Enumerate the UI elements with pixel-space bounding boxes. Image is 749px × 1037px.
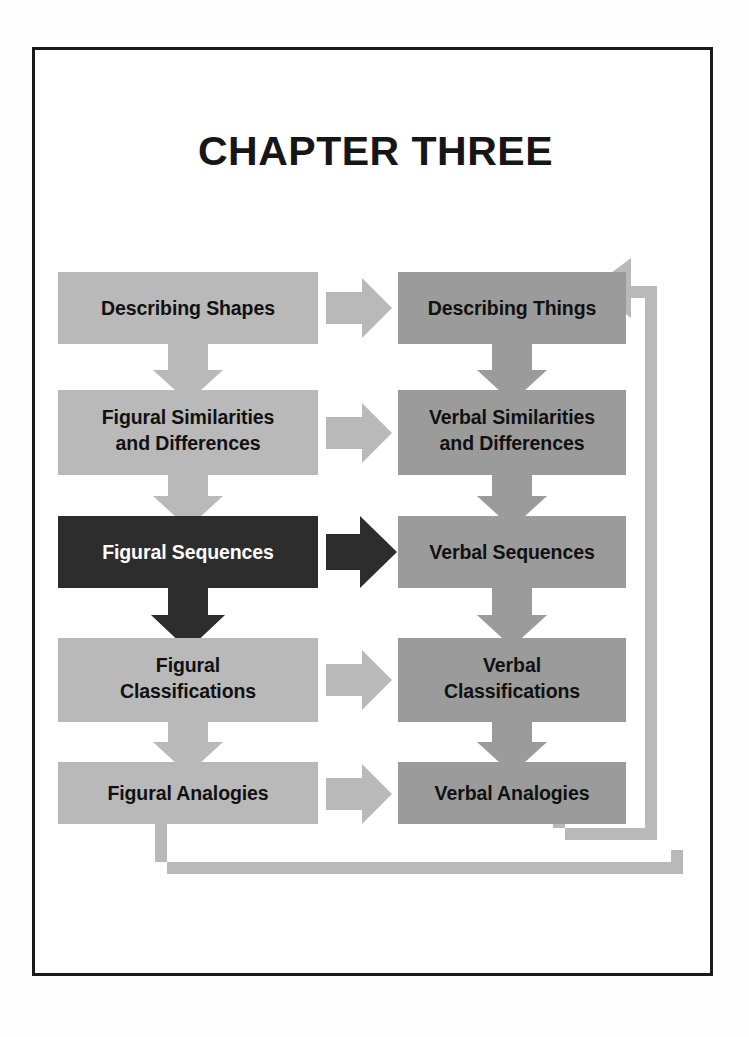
node-verbal-analogies[interactable]: Verbal Analogies bbox=[398, 762, 626, 824]
node-verbal-similarities[interactable]: Verbal Similarities and Differences bbox=[398, 390, 626, 475]
node-verbal-sequences[interactable]: Verbal Sequences bbox=[398, 516, 626, 588]
node-label: Classifications bbox=[444, 680, 580, 702]
page-canvas: CHAPTER THREE Describing Shapes Desc bbox=[0, 0, 749, 1037]
node-label: Verbal Analogies bbox=[435, 782, 590, 804]
node-label: Verbal Similarities bbox=[429, 406, 595, 428]
arrow-right-row5 bbox=[326, 764, 392, 824]
node-label: and Differences bbox=[116, 432, 261, 454]
node-label: Describing Shapes bbox=[101, 297, 275, 319]
flowchart: Describing Shapes Describing Things Figu… bbox=[35, 50, 716, 973]
node-figural-similarities[interactable]: Figural Similarities and Differences bbox=[58, 390, 318, 475]
node-describing-shapes[interactable]: Describing Shapes bbox=[58, 272, 318, 344]
node-label: and Differences bbox=[440, 432, 585, 454]
arrow-right-row2 bbox=[326, 403, 392, 463]
page-frame: CHAPTER THREE Describing Shapes Desc bbox=[32, 47, 713, 976]
node-describing-things[interactable]: Describing Things bbox=[398, 272, 626, 344]
node-verbal-classifications[interactable]: Verbal Classifications bbox=[398, 638, 626, 722]
node-label: Verbal Sequences bbox=[429, 541, 595, 563]
node-label: Classifications bbox=[120, 680, 256, 702]
node-label: Figural Analogies bbox=[107, 782, 268, 804]
node-label: Figural bbox=[156, 654, 220, 676]
node-figural-classifications[interactable]: Figural Classifications bbox=[58, 638, 318, 722]
node-figural-analogies[interactable]: Figural Analogies bbox=[58, 762, 318, 824]
node-label: Figural Sequences bbox=[102, 541, 274, 563]
node-figural-sequences[interactable]: Figural Sequences bbox=[58, 516, 318, 588]
arrow-right-row1 bbox=[326, 278, 392, 338]
arrow-right-row3-highlighted bbox=[326, 516, 397, 588]
node-label: Verbal bbox=[483, 654, 541, 676]
node-label: Figural Similarities bbox=[102, 406, 275, 428]
arrow-right-row4 bbox=[326, 650, 392, 710]
node-label: Describing Things bbox=[428, 297, 597, 319]
